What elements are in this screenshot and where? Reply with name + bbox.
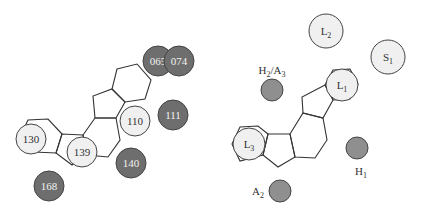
residue-label: 168 xyxy=(41,180,58,192)
ring-hexagon-center xyxy=(290,113,327,158)
feature-L3: L3 xyxy=(233,128,265,160)
feature-A2: A2 xyxy=(252,180,291,202)
feature-H2A3: H2/A3 xyxy=(259,64,286,101)
feature-circle xyxy=(261,79,283,101)
feature-L1: L1 xyxy=(326,69,358,101)
feature-label: H2/A3 xyxy=(259,64,286,79)
pharmacophore-diagram: 065074111110130139140168 L2S1L1L3H2/A3H1… xyxy=(0,0,422,215)
residue-130: 130 xyxy=(16,124,46,154)
feature-S1: S1 xyxy=(371,40,405,74)
residue-label: 139 xyxy=(74,146,91,158)
feature-circle xyxy=(269,180,291,202)
residue-111: 111 xyxy=(158,100,188,130)
ring-hexagon-top xyxy=(112,64,151,102)
residue-110: 110 xyxy=(120,106,150,136)
right-feature-group: L2S1L1L3H2/A3H1A2 xyxy=(233,14,405,202)
residue-label: 140 xyxy=(123,157,140,169)
feature-circle xyxy=(346,137,368,159)
feature-label: H1 xyxy=(355,165,367,180)
feature-H1: H1 xyxy=(346,137,368,180)
residue-label: 130 xyxy=(23,133,40,145)
ring-pentagon-lower xyxy=(263,134,295,167)
residue-label: 074 xyxy=(171,55,188,67)
residue-label: 110 xyxy=(127,115,144,127)
residue-168: 168 xyxy=(34,171,64,201)
feature-label: A2 xyxy=(252,185,264,200)
residue-label: 111 xyxy=(165,109,181,121)
ring-pentagon-middle xyxy=(93,89,125,118)
residue-139: 139 xyxy=(67,137,97,167)
left-residue-group: 065074111110130139140168 xyxy=(16,46,194,201)
residue-140: 140 xyxy=(116,148,146,178)
residue-074: 074 xyxy=(164,46,194,76)
feature-L2: L2 xyxy=(309,14,343,48)
